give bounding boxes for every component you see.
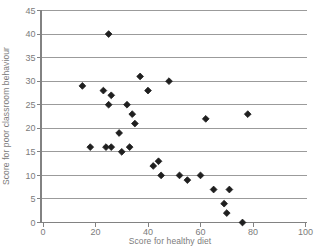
x-tick-label: 20 — [90, 227, 100, 237]
y-tick-label: 10 — [25, 171, 35, 181]
data-point — [129, 111, 136, 118]
x-tick-label: 0 — [40, 227, 45, 237]
data-point — [108, 144, 115, 151]
x-axis-title: Score for healthy diet — [129, 236, 212, 246]
y-tick-label: 45 — [25, 6, 35, 16]
axes-group — [37, 10, 308, 227]
x-tick-label: 80 — [248, 227, 258, 237]
scatter-chart: 051015202530354045020406080100 Score for… — [0, 0, 315, 250]
data-point — [87, 144, 94, 151]
plot-area: 051015202530354045020406080100 Score for… — [0, 0, 315, 250]
data-point — [118, 148, 125, 155]
data-point — [137, 73, 144, 80]
data-point — [100, 87, 107, 94]
data-point — [202, 115, 209, 122]
data-point — [155, 158, 162, 165]
data-point — [223, 210, 230, 217]
x-tick-label: 100 — [298, 227, 313, 237]
data-point — [221, 200, 228, 207]
y-tick-label: 30 — [25, 76, 35, 86]
y-tick-label: 25 — [25, 100, 35, 110]
gridlines-group — [41, 11, 307, 199]
y-tick-label: 40 — [25, 29, 35, 39]
data-point — [79, 82, 86, 89]
data-point — [124, 101, 131, 108]
data-point — [105, 101, 112, 108]
data-point — [244, 111, 251, 118]
y-tick-label: 20 — [25, 123, 35, 133]
y-tick-label: 35 — [25, 53, 35, 63]
data-point — [184, 177, 191, 184]
data-point — [210, 186, 217, 193]
data-point — [226, 186, 233, 193]
data-point — [131, 120, 138, 127]
data-point — [108, 92, 115, 99]
data-point — [176, 172, 183, 179]
data-point — [116, 130, 123, 137]
data-point — [105, 31, 112, 38]
data-point — [126, 144, 133, 151]
tick-labels-group: 051015202530354045020406080100 — [25, 6, 313, 237]
data-point — [158, 172, 165, 179]
y-axis-title: Score for poor classroom behaviour — [1, 47, 11, 185]
data-point — [145, 87, 152, 94]
y-tick-label: 15 — [25, 147, 35, 157]
y-tick-label: 5 — [30, 194, 35, 204]
data-point — [166, 78, 173, 85]
data-point — [197, 172, 204, 179]
y-tick-label: 0 — [30, 218, 35, 228]
data-point — [239, 219, 246, 226]
data-point — [150, 163, 157, 170]
